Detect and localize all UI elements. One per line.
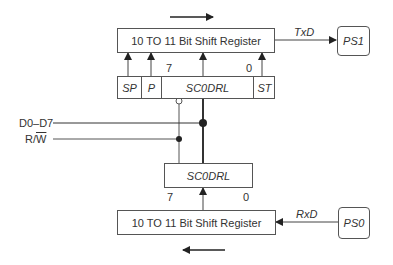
tx-shift-register-label: 10 TO 11 Bit Shift Register [131, 35, 261, 47]
data-bus-label: D0–D7 [19, 118, 53, 129]
port-ps0-label: PS0 [344, 217, 365, 229]
rx-shift-register: 10 TO 11 Bit Shift Register [117, 210, 276, 235]
rw-label: R/W [25, 134, 46, 145]
tx-cell-sc0drl: SC0DRL [162, 77, 254, 98]
port-ps1: PS1 [337, 26, 370, 56]
tx-buffer-bit-high: 7 [166, 63, 172, 74]
txd-label: TxD [294, 27, 314, 38]
tx-cell-p: P [142, 77, 162, 98]
port-ps0: PS0 [338, 207, 370, 239]
rx-buffer-register: SC0DRL [164, 163, 253, 188]
tx-buffer-bit-low: 0 [246, 63, 252, 74]
rx-buffer-label: SC0DRL [187, 170, 230, 182]
rx-shift-register-label: 10 TO 11 Bit Shift Register [132, 217, 262, 229]
tx-cell-st: ST [254, 77, 275, 98]
rx-buffer-bit-low: 0 [243, 192, 249, 203]
tx-cell-sp: SP [118, 77, 142, 98]
tx-shift-register: 10 TO 11 Bit Shift Register [117, 28, 275, 53]
rx-buffer-bit-high: 7 [167, 192, 173, 203]
rxd-label: RxD [296, 209, 317, 220]
tx-buffer-register: SP P SC0DRL ST [117, 76, 275, 99]
port-ps1-label: PS1 [343, 35, 364, 47]
